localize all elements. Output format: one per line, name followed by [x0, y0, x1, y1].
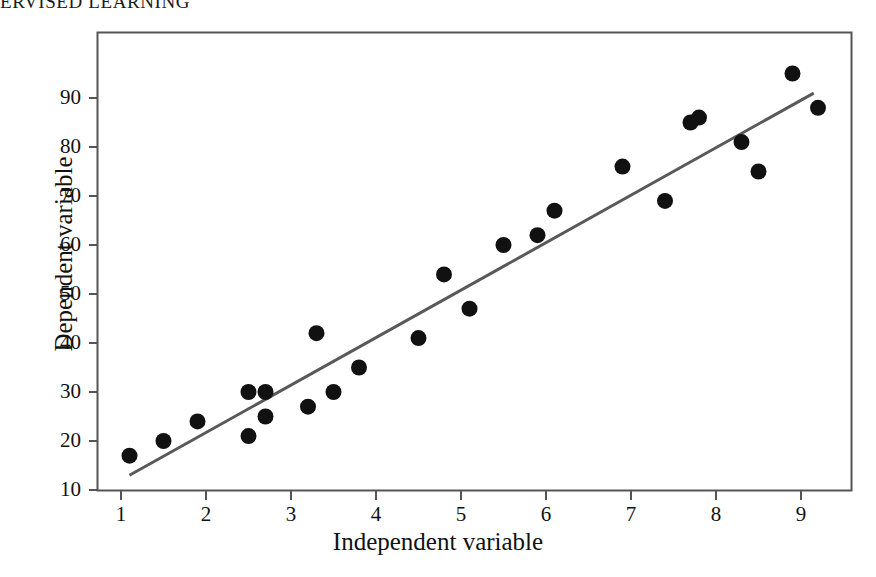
data-point [258, 409, 274, 425]
x-axis-title: Independent variable [0, 528, 876, 556]
data-point [496, 237, 512, 253]
data-point [241, 428, 257, 444]
data-point [657, 193, 673, 209]
x-tick-label: 2 [191, 502, 221, 527]
x-tick-label: 6 [531, 502, 561, 527]
x-tick-label: 7 [616, 502, 646, 527]
x-tick-label: 3 [276, 502, 306, 527]
y-tick-label: 10 [41, 477, 81, 502]
data-point [462, 301, 478, 317]
data-point [691, 110, 707, 126]
y-tick-label: 20 [41, 428, 81, 453]
data-point [547, 203, 563, 219]
data-point [122, 448, 138, 464]
x-tick-label: 1 [106, 502, 136, 527]
plot-frame [98, 33, 852, 491]
data-point [751, 164, 767, 180]
data-point [326, 384, 342, 400]
scatter-plot-figure: 102030405060708090 123456789 Dependent v… [0, 0, 876, 577]
data-point [258, 384, 274, 400]
data-point [309, 325, 325, 341]
x-tick-label: 8 [701, 502, 731, 527]
data-point [300, 399, 316, 415]
x-axis-ticks [121, 491, 801, 500]
y-axis-title: Dependent variable [50, 104, 78, 404]
data-point [436, 266, 452, 282]
data-point [411, 330, 427, 346]
data-point [351, 360, 367, 376]
data-point [156, 433, 172, 449]
y-axis-ticks [89, 98, 97, 490]
data-point [734, 134, 750, 150]
data-point [785, 66, 801, 82]
plot-canvas [0, 0, 876, 577]
data-point [241, 384, 257, 400]
x-tick-label: 5 [446, 502, 476, 527]
data-point [615, 159, 631, 175]
data-point [190, 413, 206, 429]
data-point [810, 100, 826, 116]
data-point [530, 227, 546, 243]
x-tick-label: 4 [361, 502, 391, 527]
x-tick-label: 9 [786, 502, 816, 527]
